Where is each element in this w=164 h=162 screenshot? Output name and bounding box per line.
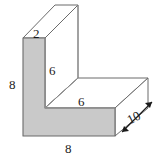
label-inner-vertical: 6 bbox=[49, 64, 56, 77]
l-shape-solid-figure: 2 8 6 6 8 10 bbox=[0, 0, 164, 162]
label-top-depth: 2 bbox=[33, 27, 40, 40]
label-inner-horizontal: 6 bbox=[78, 95, 85, 108]
label-left-height: 8 bbox=[9, 78, 16, 91]
label-bottom-width: 8 bbox=[65, 142, 72, 155]
l-shape-solid-drawing bbox=[0, 0, 164, 162]
